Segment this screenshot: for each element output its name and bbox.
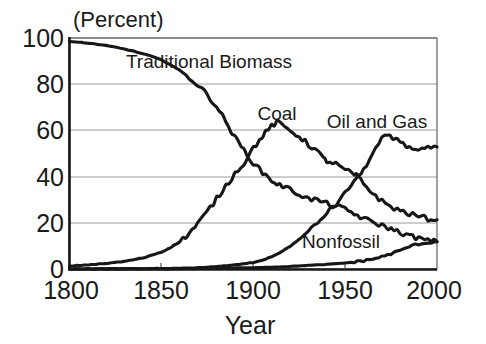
y-axis-tick-labels: 100 80 60 40 20 0 xyxy=(22,24,64,283)
series-annotations: Traditional Biomass Coal Oil and Gas Non… xyxy=(126,51,427,252)
x-tick-label-1900: 1900 xyxy=(225,276,281,304)
series-line-coal xyxy=(70,120,438,266)
series-label-nonfossil: Nonfossil xyxy=(302,231,380,252)
y-tick-label-60: 60 xyxy=(36,116,64,144)
y-tick-label-20: 20 xyxy=(36,209,64,237)
y-tick-label-40: 40 xyxy=(36,163,64,191)
series-label-oil-and-gas: Oil and Gas xyxy=(327,111,427,132)
series-lines xyxy=(70,41,438,269)
series-line-oil-and-gas xyxy=(70,135,438,269)
y-axis-unit-label: (Percent) xyxy=(73,7,163,32)
y-tick-label-80: 80 xyxy=(36,70,64,98)
x-axis-tick-labels: 1800 1850 1900 1950 2000 xyxy=(43,276,462,304)
y-tick-label-100: 100 xyxy=(22,24,64,52)
x-axis-title: Year xyxy=(225,311,276,339)
x-tick-label-2000: 2000 xyxy=(406,276,462,304)
x-tick-label-1950: 1950 xyxy=(317,276,373,304)
plot-area-frame xyxy=(69,38,437,269)
x-tick-label-1800: 1800 xyxy=(43,276,99,304)
chart-page: 100 80 60 40 20 0 1800 1850 1900 1950 20… xyxy=(0,0,486,344)
x-tick-label-1850: 1850 xyxy=(133,276,189,304)
series-label-traditional-biomass: Traditional Biomass xyxy=(126,51,292,72)
series-label-coal: Coal xyxy=(257,103,296,124)
energy-transition-line-chart: 100 80 60 40 20 0 1800 1850 1900 1950 20… xyxy=(0,0,486,344)
